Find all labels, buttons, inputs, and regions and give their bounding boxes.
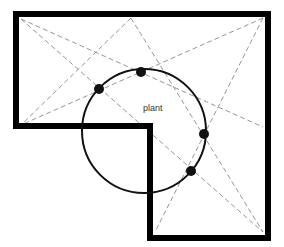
intersection-dot bbox=[199, 129, 209, 139]
intersection-dot bbox=[94, 84, 104, 94]
intersection-dot bbox=[186, 166, 196, 176]
floor-plan-diagram: plant bbox=[0, 0, 284, 247]
dashed-sightline bbox=[21, 18, 131, 125]
plant-label: plant bbox=[143, 103, 163, 113]
intersection-dot bbox=[136, 67, 146, 77]
dashed-sightline bbox=[155, 18, 263, 232]
